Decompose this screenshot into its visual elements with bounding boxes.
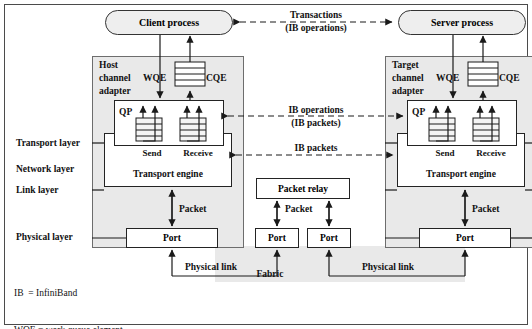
diagram-canvas: Fabric Client process Server process Hos… [0,0,532,329]
fabric-port-left-label: Port [268,233,286,243]
layer-label-transport: Transport layer [16,138,80,148]
target-transport-engine-label: Transport engine [397,168,525,180]
legend-line-wqe: WQE = work queue element [14,324,133,329]
transactions-label-line2: (IB operations) [264,22,368,34]
server-process-label: Server process [431,17,493,28]
packet-relay-box[interactable]: Packet relay [256,178,350,199]
target-adapter-label-line2: channel [392,73,424,83]
fabric-port-right-label: Port [320,233,338,243]
target-cqe-label: CQE [499,73,520,83]
host-send-label: Send [133,147,171,158]
host-adapter-label-line2: channel [99,73,131,83]
host-adapter-label-line3: adapter [99,86,131,96]
target-wqe-label: WQE [436,73,459,83]
host-adapter-label-line1: Host [99,60,118,70]
fabric-port-left-box[interactable]: Port [255,228,299,248]
ib-operations-label-line2: (IB packets) [266,117,366,129]
host-packet-label: Packet [179,204,206,214]
host-port-label: Port [163,233,181,243]
server-process-box[interactable]: Server process [398,10,526,35]
host-qp-label: QP [119,107,132,117]
host-receive-label: Receive [174,147,222,158]
target-adapter-label-line3: adapter [392,86,424,96]
target-port-box[interactable]: Port [419,228,511,248]
packet-relay-label: Packet relay [278,184,328,194]
target-send-label: Send [426,147,464,158]
client-process-label: Client process [139,17,199,28]
target-adapter-label-line1: Target [392,60,419,70]
layer-label-physical: Physical layer [16,232,73,242]
legend-block: IB = InfiniBand WQE = work queue element… [14,262,133,329]
client-process-box[interactable]: Client process [105,10,233,35]
target-packet-label: Packet [472,204,499,214]
physical-link-label-left: Physical link [185,262,237,272]
host-transport-engine-label: Transport engine [104,168,232,180]
fabric-packet-label: Packet [285,204,312,214]
host-port-box[interactable]: Port [126,228,218,248]
physical-link-label-right: Physical link [362,262,414,272]
layer-label-network: Network layer [16,164,74,174]
target-port-label: Port [456,233,474,243]
host-cqe-label: CQE [206,73,227,83]
host-wqe-label: WQE [143,73,166,83]
target-receive-label: Receive [467,147,515,158]
ib-operations-label-line1: IB operations [266,104,366,116]
transactions-label-line1: Transactions [268,9,364,21]
layer-label-link: Link layer [16,185,59,195]
legend-line-ib: IB = InfiniBand [14,287,133,299]
target-qp-label: QP [412,107,425,117]
ib-packets-label: IB packets [270,142,362,154]
fabric-port-right-box[interactable]: Port [307,228,351,248]
